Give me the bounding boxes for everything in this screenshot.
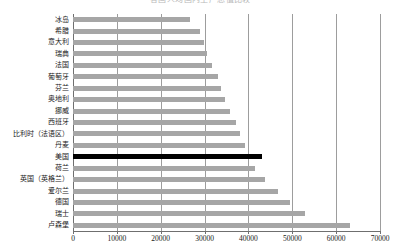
bar-美国: [73, 154, 262, 159]
tick-mark-30000: [205, 231, 206, 234]
bar-奥地利: [73, 97, 225, 102]
category-label-西班牙: 西班牙: [48, 118, 69, 126]
category-label-意大利: 意大利: [48, 38, 69, 46]
tick-mark-0: [73, 231, 74, 234]
tick-label-0: 0: [71, 234, 75, 243]
bar-意大利: [73, 40, 204, 45]
tick-label-50000: 50000: [283, 234, 302, 243]
tick-label-70000: 70000: [371, 234, 390, 243]
category-label-希腊: 希腊: [55, 27, 69, 35]
tick-mark-60000: [336, 231, 337, 234]
bar-英国（英格兰）: [73, 177, 265, 182]
category-label-卢森堡: 卢森堡: [48, 221, 69, 229]
tick-label-20000: 20000: [151, 234, 170, 243]
tick-mark-50000: [292, 231, 293, 234]
tick-label-30000: 30000: [195, 234, 214, 243]
bar-冰岛: [73, 17, 190, 22]
category-label-比利时（法语区）: 比利时（法语区）: [13, 130, 69, 138]
tick-mark-40000: [248, 231, 249, 234]
tick-label-60000: 60000: [327, 234, 346, 243]
bar-瑞士: [73, 211, 305, 216]
category-label-德国: 德国: [55, 198, 69, 206]
category-label-丹麦: 丹麦: [55, 141, 69, 149]
category-label-奥地利: 奥地利: [48, 95, 69, 103]
bar-挪威: [73, 109, 230, 114]
category-label-法国: 法国: [55, 61, 69, 69]
bar-瑞典: [73, 51, 207, 56]
bar-德国: [73, 200, 290, 205]
category-label-挪威: 挪威: [55, 107, 69, 115]
category-label-瑞典: 瑞典: [55, 50, 69, 58]
category-axis-labels: 冰岛希腊意大利瑞典法国葡萄牙芬兰奥地利挪威西班牙比利时（法语区）丹麦美国荷兰英国…: [0, 14, 72, 231]
bar-卢森堡: [73, 223, 350, 228]
category-label-葡萄牙: 葡萄牙: [48, 73, 69, 81]
bar-芬兰: [73, 86, 221, 91]
bar-比利时（法语区）: [73, 131, 240, 136]
plot-area: [73, 14, 380, 232]
bar-希腊: [73, 29, 200, 34]
category-label-爱尔兰: 爱尔兰: [48, 187, 69, 195]
bar-葡萄牙: [73, 74, 218, 79]
tick-mark-10000: [117, 231, 118, 234]
category-label-荷兰: 荷兰: [55, 164, 69, 172]
tick-mark-70000: [380, 231, 381, 234]
x-axis-tick-labels: 010000200003000040000500006000070000: [0, 234, 401, 248]
tick-mark-20000: [161, 231, 162, 234]
category-label-英国（英格兰）: 英国（英格兰）: [20, 175, 69, 183]
x-axis-line: [73, 231, 381, 232]
tick-label-40000: 40000: [239, 234, 258, 243]
bar-法国: [73, 63, 212, 68]
bar-丹麦: [73, 143, 245, 148]
category-label-瑞士: 瑞士: [55, 210, 69, 218]
bar-rows: [73, 14, 380, 231]
chart-title: 各国人均国内生产总值比较: [0, 0, 401, 4]
bar-chart: 各国人均国内生产总值比较 冰岛希腊意大利瑞典法国葡萄牙芬兰奥地利挪威西班牙比利时…: [0, 0, 401, 251]
bar-西班牙: [73, 120, 236, 125]
category-label-芬兰: 芬兰: [55, 84, 69, 92]
gridline-70000: [380, 14, 381, 231]
category-label-美国: 美国: [55, 153, 69, 161]
tick-label-10000: 10000: [108, 234, 127, 243]
bar-爱尔兰: [73, 189, 278, 194]
bar-荷兰: [73, 166, 255, 171]
category-label-冰岛: 冰岛: [55, 16, 69, 24]
